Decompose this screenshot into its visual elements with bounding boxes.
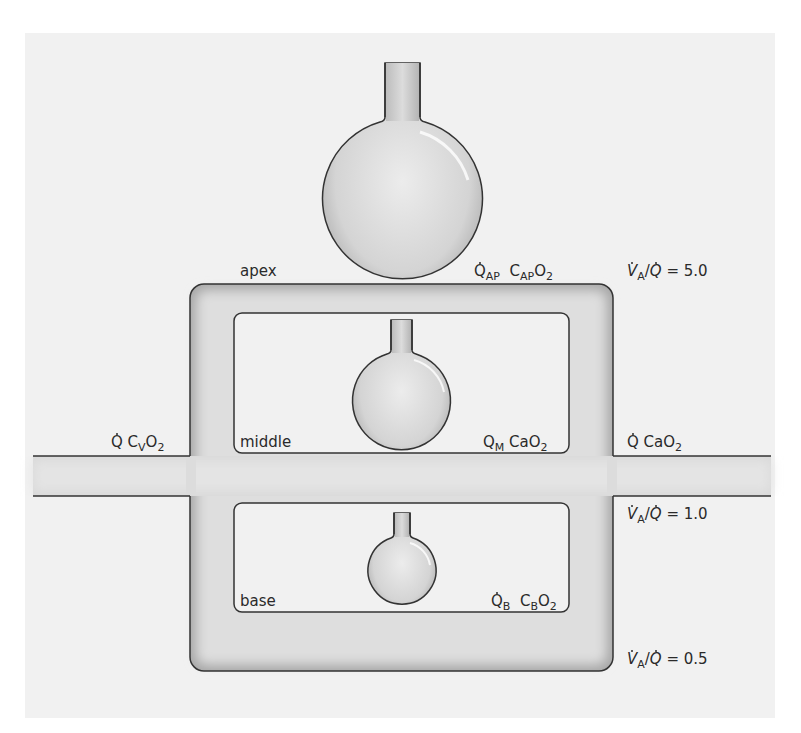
vq-ratio-base-value: = 0.5 [666, 650, 707, 668]
middle-flow-content: QM CaO2 [483, 433, 548, 451]
main-vessel [33, 456, 771, 496]
base-flow-symbol: Q [491, 592, 503, 610]
middle-content-symbol: CaO [509, 433, 540, 451]
apex-label: apex [240, 262, 277, 280]
inflow-label: Q CVO2 [111, 433, 164, 451]
vq-ratio-middle: VA/Q = 1.0 [627, 505, 708, 523]
apex-flow-content: QAP CAPO2 [474, 262, 553, 280]
vq-ratio-apex: VA/Q = 5.0 [627, 262, 708, 280]
vq-ratio-apex-value: = 5.0 [666, 262, 707, 280]
vq-ratio-middle-value: = 1.0 [666, 505, 707, 523]
lung-zone-diagram [0, 0, 801, 733]
apex-content-symbol: C [510, 262, 520, 280]
base-flow-content: QB CBO2 [491, 592, 557, 610]
apex-flow-symbol: Q [474, 262, 486, 280]
base-label: base [240, 592, 276, 610]
middle-flow-symbol: Q [483, 433, 495, 451]
base-content-symbol: C [520, 592, 530, 610]
inflow-flow-symbol: Q [111, 433, 123, 451]
middle-label: middle [240, 433, 291, 451]
apex-alveolus-icon [322, 63, 482, 279]
outflow-label: Q CaO2 [627, 433, 682, 451]
vq-ratio-base: VA/Q = 0.5 [627, 650, 708, 668]
outflow-flow-symbol: Q [627, 433, 639, 451]
